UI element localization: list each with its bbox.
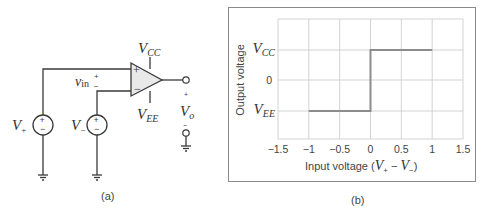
x-axis-label: Input voltage (V+ − V−) — [305, 158, 417, 175]
caption-b: (b) — [351, 194, 364, 206]
transfer-curve — [309, 50, 432, 111]
x-tick-label: 1 — [429, 143, 435, 155]
vplus-wire — [43, 69, 131, 115]
vcc-label: VCC — [138, 40, 161, 58]
figure: + − VCC VEE vin + − + Vo − — [0, 0, 490, 215]
y-axis-label: Output voltage — [234, 44, 246, 116]
output-terminal-bottom — [183, 130, 189, 136]
x-tick-label: 0 — [368, 143, 374, 155]
x-tick-label: −1 — [303, 143, 315, 155]
vin-minus: − — [94, 82, 99, 91]
vminus-label: V− — [71, 117, 85, 135]
output-ground-icon — [181, 146, 191, 151]
circuit-diagram: + − VCC VEE vin + − + Vo − — [12, 40, 194, 202]
x-tick-labels: −1.5−1−0.500.511.5 — [268, 143, 471, 155]
caption-a: (a) — [101, 190, 114, 202]
opamp-minus-sign: − — [134, 82, 141, 96]
vo-minus: − — [183, 122, 187, 129]
y-tick-label: VCC — [252, 40, 275, 58]
vplus-source-minus: − — [40, 124, 45, 134]
vo-plus: + — [184, 91, 188, 98]
vee-label: VEE — [137, 106, 158, 124]
y-tick-labels: VCC0VEE — [252, 40, 275, 119]
vminus-ground-icon — [92, 175, 102, 180]
vin-label: vin — [75, 74, 89, 89]
vplus-ground-icon — [38, 175, 48, 180]
x-tick-label: −1.5 — [268, 143, 289, 155]
x-tick-label: 0.5 — [394, 143, 409, 155]
y-tick-label: VEE — [254, 101, 275, 119]
vminus-wire — [97, 91, 131, 115]
opamp-plus-sign: + — [133, 63, 140, 77]
output-terminal-top — [183, 77, 189, 83]
x-tick-label: −0.5 — [329, 143, 350, 155]
vin-plus: + — [94, 72, 99, 81]
transfer-chart: −1.5−1−0.500.511.5 VCC0VEE Output voltag… — [229, 8, 476, 207]
vminus-source-minus: − — [94, 124, 99, 134]
x-tick-label: 1.5 — [456, 143, 471, 155]
chart-frame — [229, 8, 476, 182]
y-tick-label: 0 — [266, 74, 272, 86]
vplus-label: V+ — [12, 117, 26, 135]
vo-label: Vo — [180, 103, 194, 121]
